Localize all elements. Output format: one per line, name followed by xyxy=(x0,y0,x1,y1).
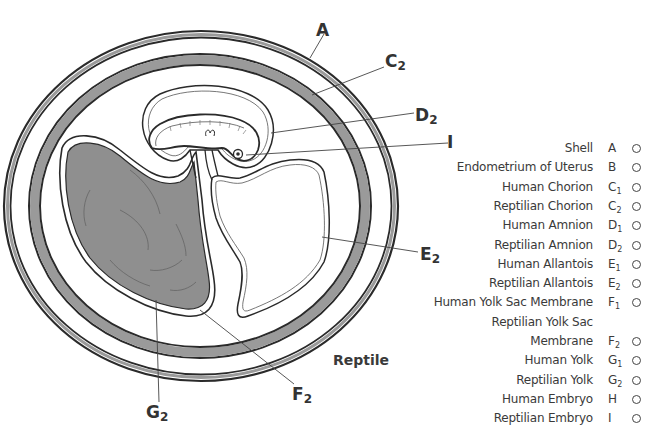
legend-item: Human YolkG1 xyxy=(440,353,653,372)
legend-item: Reptilian YolkG2 xyxy=(440,373,653,392)
legend-term: Reptilian Embryo xyxy=(494,411,593,425)
color-circle-checkbox[interactable] xyxy=(632,221,641,230)
color-circle-checkbox[interactable] xyxy=(632,183,641,192)
legend-term: Human Embryo xyxy=(502,392,593,406)
legend-letter-text: F xyxy=(608,295,615,309)
legend-letter-text: A xyxy=(608,141,616,155)
legend-item: Reptilian AllantoisE2 xyxy=(440,276,653,295)
callout-subscript: 2 xyxy=(429,113,437,127)
color-circle-checkbox[interactable] xyxy=(632,395,641,404)
legend-letter: F1 xyxy=(608,295,624,311)
legend-item: Human AmnionD1 xyxy=(440,218,653,237)
legend-letter-text: E xyxy=(608,276,616,290)
color-circle-checkbox[interactable] xyxy=(632,376,641,385)
legend-letter-text: G xyxy=(608,353,617,367)
legend-term: Reptilian Yolk xyxy=(516,373,593,387)
legend-letter: F2 xyxy=(608,334,624,350)
legend-term: Reptilian Allantois xyxy=(489,276,593,290)
color-circle-checkbox[interactable] xyxy=(632,356,641,365)
legend-term: Shell xyxy=(565,141,593,155)
legend-letter-text: F xyxy=(608,334,615,348)
legend-item: Human AllantoisE1 xyxy=(440,257,653,276)
legend-letter-text: D xyxy=(608,218,617,232)
legend-subscript: 2 xyxy=(615,341,620,350)
legend-item: Reptilian AmnionD2 xyxy=(440,238,653,257)
legend-letter: C2 xyxy=(608,199,624,215)
legend-subscript: 2 xyxy=(616,283,621,292)
legend-term: Reptilian Yolk Sac xyxy=(492,315,593,329)
legend-subscript: 1 xyxy=(616,264,621,273)
legend-item: MembraneF2 xyxy=(440,334,653,353)
callout-letter: A xyxy=(316,20,329,40)
legend-subscript: 1 xyxy=(617,225,622,234)
callout-subscript: 2 xyxy=(304,392,312,406)
legend-letter-text: G xyxy=(608,373,617,387)
legend-term: Human Yolk xyxy=(525,353,593,367)
legend-term: Human Amnion xyxy=(503,218,593,232)
legend-item: Reptilian ChorionC2 xyxy=(440,199,653,218)
legend-term: Human Chorion xyxy=(502,180,593,194)
legend-item: Reptilian EmbryoI xyxy=(440,411,653,430)
color-circle-checkbox[interactable] xyxy=(632,279,641,288)
legend-letter: D2 xyxy=(608,238,624,254)
legend-letter: G2 xyxy=(608,373,624,389)
legend-term: Human Yolk Sac Membrane xyxy=(434,295,593,309)
legend-subscript: 1 xyxy=(617,360,622,369)
color-circle-checkbox[interactable] xyxy=(632,298,641,307)
legend-letter-text: H xyxy=(608,392,617,406)
callout-c2: C2 xyxy=(385,53,406,72)
callout-a: A xyxy=(316,22,329,39)
legend-letter: A xyxy=(608,141,624,155)
diagram-caption: Reptile xyxy=(333,352,389,368)
callout-letter: E xyxy=(420,244,432,264)
legend-letter: B xyxy=(608,160,624,174)
callout-subscript: 2 xyxy=(432,252,440,266)
callout-e2: E2 xyxy=(420,246,440,265)
legend-item: Reptilian Yolk Sac xyxy=(440,315,653,334)
color-circle-checkbox[interactable] xyxy=(632,144,641,153)
legend-term: Reptilian Amnion xyxy=(494,238,593,252)
legend-item: Human EmbryoH xyxy=(440,392,653,411)
color-circle-checkbox[interactable] xyxy=(632,414,641,423)
legend-letter: D1 xyxy=(608,218,624,234)
legend-letter-text: D xyxy=(608,238,617,252)
callout-letter: C xyxy=(385,51,397,71)
legend-letter: C1 xyxy=(608,180,624,196)
legend-subscript: 2 xyxy=(617,245,622,254)
legend-term: Membrane xyxy=(530,334,593,348)
legend-letter: I xyxy=(608,411,624,425)
legend-term: Human Allantois xyxy=(497,257,593,271)
legend-term: Endometrium of Uterus xyxy=(457,160,593,174)
legend-letter: G1 xyxy=(608,353,624,369)
legend-letter-text: B xyxy=(608,160,616,174)
legend-letter: H xyxy=(608,392,624,406)
callout-letter: G xyxy=(146,402,160,422)
legend-item: Endometrium of UterusB xyxy=(440,160,653,179)
legend-subscript: 2 xyxy=(617,380,622,389)
color-circle-checkbox[interactable] xyxy=(632,202,641,211)
legend-subscript: 2 xyxy=(616,206,621,215)
callout-g2: G2 xyxy=(146,404,168,423)
callout-d2: D2 xyxy=(415,107,437,126)
color-circle-checkbox[interactable] xyxy=(632,260,641,269)
callout-letter: F xyxy=(292,384,304,404)
callout-f2: F2 xyxy=(292,386,312,405)
color-circle-checkbox[interactable] xyxy=(632,241,641,250)
color-circle-checkbox[interactable] xyxy=(632,337,641,346)
callout-subscript: 2 xyxy=(160,410,168,424)
legend-letter-text: I xyxy=(608,411,612,425)
callout-subscript: 2 xyxy=(397,59,405,73)
legend-item: Human Yolk Sac MembraneF1 xyxy=(440,295,653,314)
legend-letter: E2 xyxy=(608,276,624,292)
legend-letter-text: E xyxy=(608,257,616,271)
legend-term: Reptilian Chorion xyxy=(494,199,593,213)
callout-letter: D xyxy=(415,105,429,125)
legend-subscript: 1 xyxy=(616,187,621,196)
legend-item: Human ChorionC1 xyxy=(440,180,653,199)
legend-item: ShellA xyxy=(440,141,653,160)
legend-letter: E1 xyxy=(608,257,624,273)
legend-subscript: 1 xyxy=(615,302,620,311)
color-circle-checkbox[interactable] xyxy=(632,163,641,172)
